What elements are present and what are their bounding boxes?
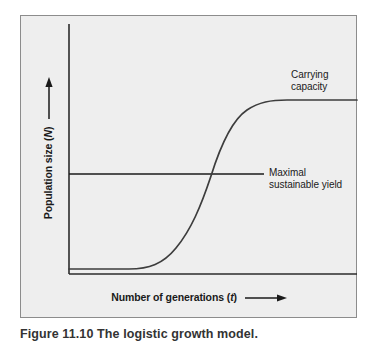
annotation-carrying-capacity-line1: Carrying <box>291 69 328 81</box>
x-axis-label-suffix: ) <box>234 291 237 303</box>
annotation-carrying-capacity: Carrying capacity <box>291 69 328 92</box>
annotation-msy-line2: sustainable yield <box>269 179 342 191</box>
annotation-msy-line1: Maximal <box>269 167 342 179</box>
up-arrow-icon <box>43 77 55 119</box>
y-axis-label-variable: N <box>42 130 54 137</box>
right-arrow-icon <box>245 292 287 304</box>
y-axis-label-text: Population size ( <box>42 138 54 220</box>
figure-caption: Figure 11.10 The logistic growth model. <box>20 327 360 341</box>
x-axis-label: Number of generations (t) <box>69 291 329 304</box>
plot-area: Population size (N) Number of generation… <box>21 16 358 319</box>
annotation-carrying-capacity-line2: capacity <box>291 81 328 93</box>
x-axis-label-text: Number of generations ( <box>111 291 230 303</box>
figure-panel: Population size (N) Number of generation… <box>20 15 357 318</box>
y-axis-label: Population size (N) <box>42 63 58 233</box>
y-axis-label-suffix: ) <box>42 127 54 130</box>
annotation-maximal-sustainable-yield: Maximal sustainable yield <box>269 167 342 190</box>
